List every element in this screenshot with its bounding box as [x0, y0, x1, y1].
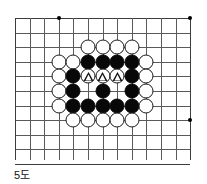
black-stone[interactable] — [124, 98, 139, 113]
white-stone[interactable] — [81, 40, 96, 55]
white-stone[interactable] — [81, 113, 96, 128]
white-stone[interactable] — [51, 69, 66, 84]
white-stone[interactable] — [110, 40, 125, 55]
figure-caption: 5도 — [14, 166, 30, 182]
white-stone[interactable] — [124, 40, 139, 55]
white-stone[interactable] — [51, 84, 66, 99]
star-point — [188, 118, 192, 122]
grid-line-horizontal — [15, 164, 190, 165]
white-stone[interactable] — [81, 69, 96, 84]
white-stone[interactable] — [66, 54, 81, 69]
white-stone[interactable] — [139, 54, 154, 69]
grid-line-vertical — [176, 18, 177, 160]
star-point — [188, 16, 192, 20]
white-stone[interactable] — [66, 113, 81, 128]
black-stone[interactable] — [95, 98, 110, 113]
go-diagram-figure: 5도 — [0, 0, 207, 184]
black-stone[interactable] — [66, 69, 81, 84]
white-stone[interactable] — [139, 98, 154, 113]
white-stone[interactable] — [124, 113, 139, 128]
white-stone[interactable] — [51, 54, 66, 69]
grid-line-vertical — [161, 18, 162, 160]
go-board[interactable] — [15, 18, 190, 160]
white-stone[interactable] — [95, 40, 110, 55]
white-stone[interactable] — [95, 113, 110, 128]
triangle-marker-inner-icon — [100, 74, 106, 80]
black-stone[interactable] — [95, 84, 110, 99]
white-stone[interactable] — [139, 69, 154, 84]
white-stone[interactable] — [139, 84, 154, 99]
star-point — [57, 16, 61, 20]
white-stone[interactable] — [51, 98, 66, 113]
triangle-marker-inner-icon — [114, 74, 120, 80]
grid-line-vertical — [44, 18, 45, 160]
white-stone[interactable] — [110, 113, 125, 128]
black-stone[interactable] — [110, 98, 125, 113]
black-stone[interactable] — [66, 98, 81, 113]
black-stone[interactable] — [81, 98, 96, 113]
black-stone[interactable] — [110, 54, 125, 69]
black-stone[interactable] — [124, 69, 139, 84]
grid-line-vertical — [30, 18, 31, 160]
white-stone[interactable] — [95, 69, 110, 84]
grid-line-vertical — [190, 18, 191, 160]
black-stone[interactable] — [124, 54, 139, 69]
black-stone[interactable] — [81, 54, 96, 69]
black-stone[interactable] — [66, 84, 81, 99]
triangle-marker-inner-icon — [85, 74, 91, 80]
grid-line-vertical — [15, 18, 16, 160]
black-stone[interactable] — [124, 84, 139, 99]
white-stone[interactable] — [110, 69, 125, 84]
black-stone[interactable] — [95, 54, 110, 69]
